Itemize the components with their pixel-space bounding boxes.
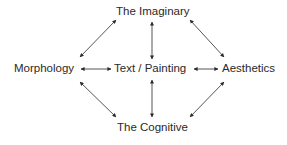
node-text-painting: Text / Painting xyxy=(114,63,186,75)
node-morphology: Morphology xyxy=(14,63,74,75)
arrow-aesthetics-cognitive xyxy=(190,82,224,117)
node-the-imaginary: The Imaginary xyxy=(116,6,190,18)
arrow-morphology-imaginary xyxy=(80,20,116,57)
arrow-morphology-cognitive xyxy=(80,82,116,117)
node-aesthetics: Aesthetics xyxy=(222,63,275,75)
arrow-aesthetics-imaginary xyxy=(190,20,224,57)
node-the-cognitive: The Cognitive xyxy=(117,122,188,134)
